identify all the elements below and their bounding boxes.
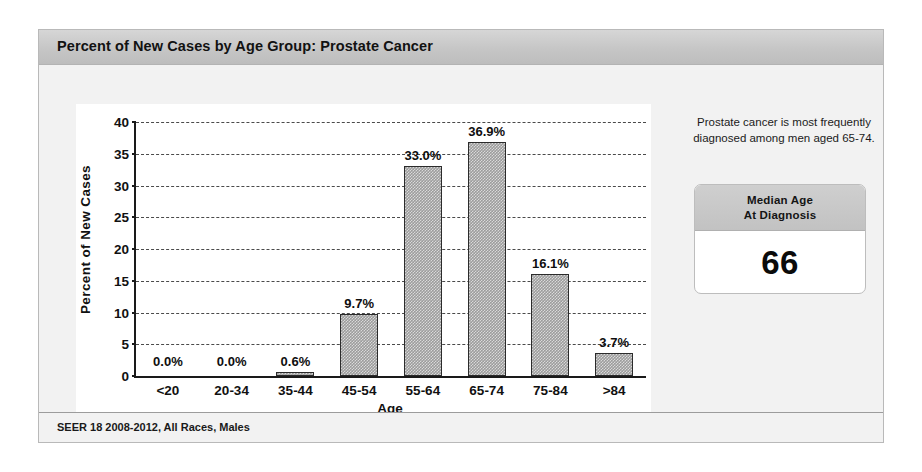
bar-value-label: 9.7% bbox=[344, 296, 374, 311]
median-age-label-line2: At Diagnosis bbox=[744, 208, 817, 223]
bar-group: 3.7%>84 bbox=[582, 122, 646, 376]
panel-header: Percent of New Cases by Age Group: Prost… bbox=[39, 30, 883, 65]
source-note: SEER 18 2008-2012, All Races, Males bbox=[57, 421, 250, 433]
x-axis-tick-label: 65-74 bbox=[469, 383, 504, 398]
side-panel: Prostate cancer is most frequently diagn… bbox=[684, 114, 884, 146]
median-age-value: 66 bbox=[695, 231, 865, 294]
page-title: Percent of New Cases by Age Group: Prost… bbox=[57, 38, 433, 54]
bar-group: 16.1%75-84 bbox=[519, 122, 583, 376]
bar-group: 0.6%35-44 bbox=[264, 122, 328, 376]
bar-group: 0.0%20-34 bbox=[200, 122, 264, 376]
chart-panel: Percent of New Cases by Age Group: Prost… bbox=[38, 29, 884, 443]
x-axis-tick-label: 20-34 bbox=[214, 383, 249, 398]
y-axis-tick-label: 25 bbox=[114, 210, 129, 225]
bar-value-label: 3.7% bbox=[599, 335, 629, 350]
side-note: Prostate cancer is most frequently diagn… bbox=[684, 114, 884, 146]
bar bbox=[340, 314, 378, 376]
y-axis-tick-label: 20 bbox=[114, 242, 129, 257]
plot-area: 0510152025303540 0.0%<200.0%20-340.6%35-… bbox=[134, 122, 646, 378]
bar-value-label: 0.0% bbox=[217, 354, 247, 369]
y-axis-tick-label: 10 bbox=[114, 305, 129, 320]
bar-value-label: 36.9% bbox=[468, 124, 505, 139]
y-axis-tick-label: 40 bbox=[114, 115, 129, 130]
panel-footer: SEER 18 2008-2012, All Races, Males bbox=[39, 412, 883, 442]
bar-value-label: 33.0% bbox=[404, 148, 441, 163]
bar-group: 33.0%55-64 bbox=[391, 122, 455, 376]
bar-value-label: 16.1% bbox=[532, 256, 569, 271]
x-axis-tick-label: 75-84 bbox=[533, 383, 568, 398]
chart-card: Percent of New Cases 0510152025303540 0.… bbox=[76, 104, 651, 414]
x-axis-tick-label: 55-64 bbox=[406, 383, 441, 398]
bar-group: 9.7%45-54 bbox=[327, 122, 391, 376]
page-root: Percent of New Cases by Age Group: Prost… bbox=[0, 0, 922, 472]
bar-value-label: 0.0% bbox=[153, 354, 183, 369]
bar bbox=[468, 142, 506, 376]
y-axis-title-text: Percent of New Cases bbox=[79, 164, 94, 313]
median-age-box: Median Age At Diagnosis 66 bbox=[694, 184, 866, 294]
y-axis-title: Percent of New Cases bbox=[72, 104, 100, 374]
y-axis-tick-label: 30 bbox=[114, 178, 129, 193]
x-axis-tick-label: >84 bbox=[603, 383, 626, 398]
bar-group: 36.9%65-74 bbox=[455, 122, 519, 376]
bar-series: 0.0%<200.0%20-340.6%35-449.7%45-5433.0%5… bbox=[136, 122, 646, 376]
x-axis-tick-label: 45-54 bbox=[342, 383, 377, 398]
y-axis-tick-label: 0 bbox=[121, 369, 129, 384]
median-age-header: Median Age At Diagnosis bbox=[695, 185, 865, 231]
bar bbox=[276, 372, 314, 376]
x-axis-tick-label: <20 bbox=[156, 383, 179, 398]
y-axis-tick-label: 5 bbox=[121, 337, 129, 352]
panel-body: Percent of New Cases 0510152025303540 0.… bbox=[39, 66, 883, 412]
bar-group: 0.0%<20 bbox=[136, 122, 200, 376]
bar bbox=[531, 274, 569, 376]
y-axis-tick-label: 15 bbox=[114, 273, 129, 288]
bar-value-label: 0.6% bbox=[281, 354, 311, 369]
y-axis-tick-label: 35 bbox=[114, 146, 129, 161]
bar bbox=[595, 353, 633, 376]
x-axis-tick-label: 35-44 bbox=[278, 383, 313, 398]
bar bbox=[404, 166, 442, 376]
median-age-label-line1: Median Age bbox=[747, 193, 813, 208]
